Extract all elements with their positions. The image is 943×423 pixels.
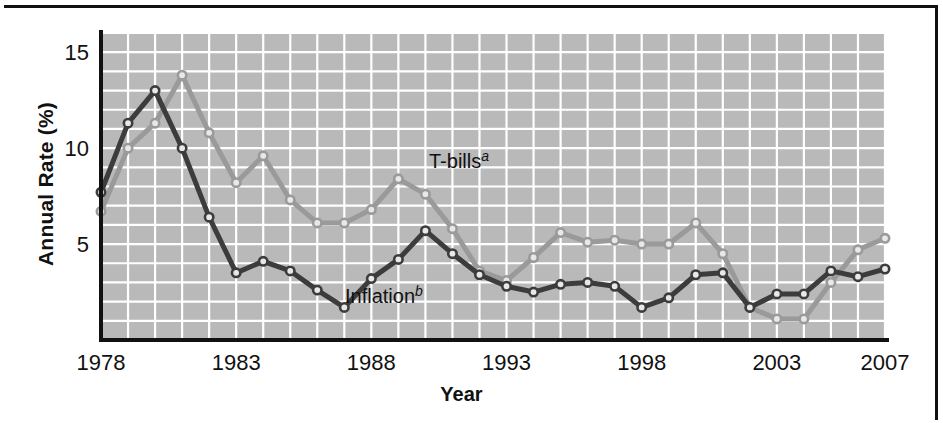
data-point [421, 226, 429, 234]
figure-container: 510151978198319881993199820032007T-bills… [0, 0, 943, 423]
data-point [881, 265, 889, 273]
x-tick-label: 1983 [212, 350, 261, 375]
data-point [151, 86, 159, 94]
inflation-series-label: Inflationb [345, 283, 423, 307]
data-point [259, 152, 267, 160]
data-point [124, 144, 132, 152]
data-point [529, 288, 537, 296]
data-point [232, 178, 240, 186]
data-point [205, 129, 213, 137]
data-point [313, 219, 321, 227]
data-point [394, 255, 402, 263]
data-point [367, 205, 375, 213]
data-point [529, 253, 537, 261]
data-point [665, 240, 673, 248]
x-tick-label: 1998 [617, 350, 666, 375]
data-point [773, 290, 781, 298]
data-point [583, 278, 591, 286]
data-point [746, 303, 754, 311]
data-point [151, 119, 159, 127]
x-tick-labels: 1978198319881993199820032007 [77, 350, 910, 375]
data-point [394, 175, 402, 183]
data-point [610, 282, 618, 290]
data-point [448, 249, 456, 257]
x-tick-label: 2007 [861, 350, 910, 375]
data-point [637, 240, 645, 248]
data-point [800, 315, 808, 323]
data-point [665, 294, 673, 302]
data-point [286, 196, 294, 204]
data-point [719, 269, 727, 277]
x-tick-label: 1993 [482, 350, 531, 375]
tbills-series-label: T-billsa [429, 148, 489, 172]
x-tick-label: 1988 [347, 350, 396, 375]
data-point [637, 303, 645, 311]
data-point [692, 219, 700, 227]
data-point [854, 272, 862, 280]
line-chart: 510151978198319881993199820032007T-bills… [0, 0, 943, 423]
data-point [367, 274, 375, 282]
data-point [854, 246, 862, 254]
data-point [692, 271, 700, 279]
y-tick-label: 5 [77, 232, 89, 257]
data-point [773, 315, 781, 323]
x-axis-title: Year [0, 383, 943, 406]
data-point [286, 267, 294, 275]
data-point [340, 219, 348, 227]
data-point [259, 257, 267, 265]
data-point [719, 249, 727, 257]
data-point [556, 280, 564, 288]
data-point [313, 286, 321, 294]
x-axis-title-text: Year [440, 383, 482, 405]
y-tick-label: 10 [65, 136, 89, 161]
data-point [421, 190, 429, 198]
data-point [502, 282, 510, 290]
data-point [800, 290, 808, 298]
chart-plot-area: 510151978198319881993199820032007T-bills… [0, 0, 943, 423]
data-point [827, 267, 835, 275]
data-point [556, 228, 564, 236]
data-point [827, 278, 835, 286]
data-point [178, 71, 186, 79]
data-point [205, 213, 213, 221]
y-tick-labels: 51015 [65, 40, 89, 257]
y-axis-title: Annual Rate (%) [34, 74, 58, 294]
data-point [881, 234, 889, 242]
y-tick-label: 15 [65, 40, 89, 65]
data-point [475, 271, 483, 279]
data-point [124, 119, 132, 127]
x-tick-label: 1978 [77, 350, 126, 375]
data-point [232, 269, 240, 277]
data-point [448, 225, 456, 233]
data-point [583, 238, 591, 246]
data-point [178, 144, 186, 152]
x-tick-label: 2003 [752, 350, 801, 375]
data-point [610, 236, 618, 244]
